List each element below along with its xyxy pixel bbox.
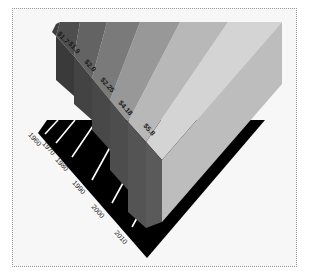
staircase-chart: $1.7 $1.9 $2.0 $2.25 $4.18 $5.8 1960 197…: [0, 0, 311, 277]
